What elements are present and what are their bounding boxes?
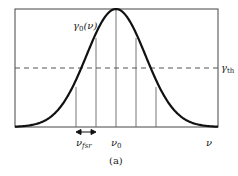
threshold-label: γth bbox=[221, 62, 235, 75]
fsr-arrow bbox=[76, 130, 96, 135]
gain-spectrum-figure: γ0(ν) γth νfsr ν0 ν (a) bbox=[0, 0, 238, 176]
figure-caption: (a) bbox=[109, 155, 123, 166]
center-frequency-label: ν0 bbox=[111, 137, 122, 150]
curve-label: γ0(ν) bbox=[73, 20, 97, 33]
x-axis-label: ν bbox=[206, 137, 212, 148]
fsr-label: νfsr bbox=[76, 137, 92, 150]
